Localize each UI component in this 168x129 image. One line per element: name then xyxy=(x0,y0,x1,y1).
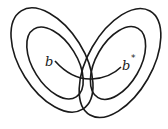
connecting-arc xyxy=(55,61,121,79)
label-b-star: b xyxy=(122,58,130,73)
right-outer-ellipse xyxy=(62,0,168,129)
butterfly-diagram: b b * xyxy=(0,0,168,129)
right-inner-ellipse xyxy=(79,17,157,108)
left-inner-ellipse xyxy=(15,17,95,108)
label-b: b xyxy=(45,54,53,69)
label-b-star-superscript: * xyxy=(131,53,136,63)
